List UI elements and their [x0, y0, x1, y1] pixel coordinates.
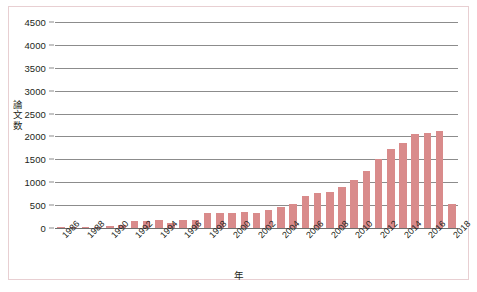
y-tick-label: 3000 — [0, 85, 46, 96]
y-tick-mark — [49, 136, 54, 137]
y-tick-label: 0 — [0, 223, 46, 234]
bar — [314, 193, 322, 228]
bar — [302, 196, 310, 228]
x-axis-title: 年 — [0, 268, 477, 282]
bar — [399, 143, 407, 228]
y-tick-mark — [49, 205, 54, 206]
bar — [265, 210, 273, 228]
bar — [143, 221, 151, 228]
y-tick-mark — [49, 228, 54, 229]
bar — [155, 220, 163, 228]
y-tick-label: 4000 — [0, 39, 46, 50]
bar — [350, 180, 358, 228]
y-tick-mark — [49, 44, 54, 45]
y-tick-label: 500 — [0, 200, 46, 211]
y-axis-title-char-3: 数 — [11, 121, 25, 131]
bar — [338, 187, 346, 228]
bar — [424, 133, 432, 228]
bar — [94, 227, 102, 228]
y-tick-mark — [49, 67, 54, 68]
chart-figure: 論 文 数 0500100015002000250030003500400045… — [0, 0, 477, 292]
y-tick-label: 2000 — [0, 131, 46, 142]
bar — [448, 204, 456, 228]
bar — [387, 149, 395, 228]
bar — [82, 227, 90, 228]
gridline — [55, 228, 458, 229]
bar — [167, 223, 175, 228]
bar — [192, 220, 200, 228]
y-tick-label: 2500 — [0, 108, 46, 119]
y-tick-mark — [49, 113, 54, 114]
bar — [131, 221, 139, 228]
bar — [179, 220, 187, 228]
bar — [363, 171, 371, 228]
y-tick-mark — [49, 159, 54, 160]
bar-series — [55, 22, 458, 228]
bar — [289, 204, 297, 228]
bar — [277, 207, 285, 228]
y-tick-mark — [49, 182, 54, 183]
bar — [106, 226, 114, 228]
y-tick-label: 3500 — [0, 62, 46, 73]
y-tick-label: 1000 — [0, 177, 46, 188]
bar — [204, 213, 212, 228]
bar — [241, 212, 249, 228]
bar — [436, 131, 444, 228]
bar — [228, 213, 236, 228]
bar — [411, 134, 419, 228]
y-tick-mark — [49, 90, 54, 91]
plot-area — [55, 22, 458, 228]
bar — [253, 213, 261, 228]
bar — [118, 225, 126, 228]
bar — [216, 213, 224, 228]
bar — [57, 227, 65, 228]
y-tick-mark — [49, 22, 54, 23]
bar — [70, 227, 78, 228]
y-tick-label: 1500 — [0, 154, 46, 165]
bar — [375, 159, 383, 228]
bar — [326, 192, 334, 228]
y-tick-label: 4500 — [0, 17, 46, 28]
